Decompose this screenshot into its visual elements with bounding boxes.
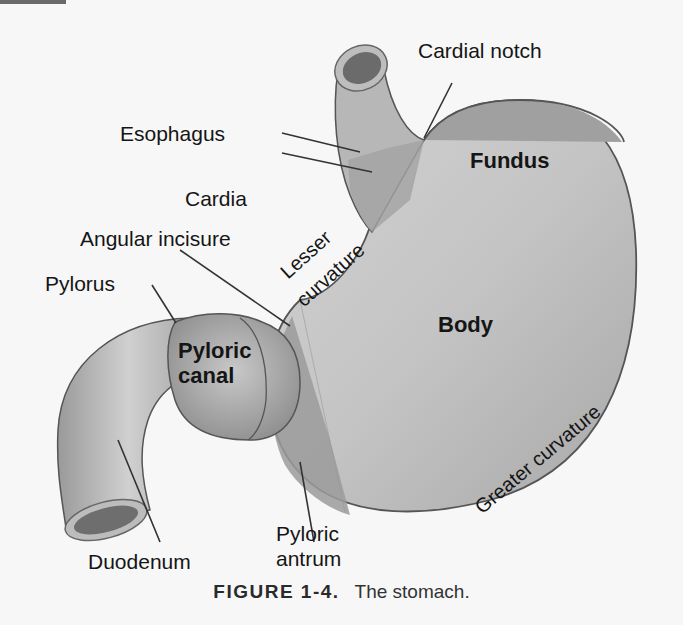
label-angular-incisure: Angular incisure	[80, 228, 231, 249]
label-pyloric-canal-line2: canal	[178, 365, 234, 387]
label-esophagus: Esophagus	[120, 123, 225, 144]
label-cardia: Cardia	[185, 188, 247, 209]
figure-caption: FIGURE 1-4. The stomach.	[0, 581, 683, 603]
label-pyloric-antrum-line2: antrum	[276, 548, 341, 569]
label-duodenum: Duodenum	[88, 551, 191, 572]
label-pyloric-antrum-line1: Pyloric	[276, 523, 339, 544]
label-pylorus: Pylorus	[45, 273, 115, 294]
figure-caption-text: The stomach.	[355, 581, 470, 602]
label-pyloric-canal-line1: Pyloric	[178, 340, 251, 362]
stomach-illustration	[0, 0, 683, 625]
label-fundus: Fundus	[470, 150, 549, 172]
label-cardial-notch: Cardial notch	[418, 40, 542, 61]
label-body: Body	[438, 314, 493, 336]
figure-number: FIGURE 1-4.	[213, 581, 339, 602]
